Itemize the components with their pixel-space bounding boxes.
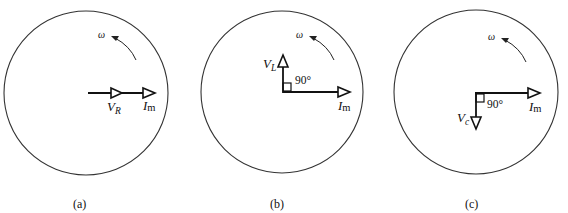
voltage-label-vl: VL [263,56,276,73]
current-label-im: Im [142,98,156,113]
omega-rotation-arrow-icon [501,38,526,62]
omega-label: ω [98,29,105,40]
current-label-im: Im [528,99,542,114]
current-label-im: Im [337,98,351,113]
panel-c-capacitor: ω 90° Vc Im (c) [394,10,558,211]
caption-c: (c) [465,197,478,211]
voltage-label-vc: Vc [457,110,470,127]
voltage-phasor-arrowhead-icon [471,117,481,129]
voltage-label-vr: VR [107,99,121,116]
omega-rotation-arrow-icon [111,36,136,60]
current-phasor-arrowhead-icon [338,87,350,97]
current-phasor-arrowhead-icon [528,88,540,98]
voltage-phasor-arrowhead-icon [278,55,288,67]
phase-angle-label: 90° [487,98,504,110]
panel-a-resistor: ω VR Im (a) [4,11,168,211]
omega-label: ω [488,31,495,42]
right-angle-marker-icon [283,83,291,91]
voltage-phasor-arrowhead-icon [111,88,122,98]
omega-rotation-arrow-icon [309,36,334,60]
phasor-diagram-figure: ω VR Im (a) ω 90° VL Im [0,0,568,213]
caption-b: (b) [270,197,284,211]
caption-a: (a) [73,197,86,211]
current-phasor-arrowhead-icon [143,88,155,98]
omega-label: ω [296,29,303,40]
right-angle-marker-icon [476,94,484,102]
phase-angle-label: 90° [295,74,312,86]
panel-b-inductor: ω 90° VL Im (b) [201,11,363,211]
